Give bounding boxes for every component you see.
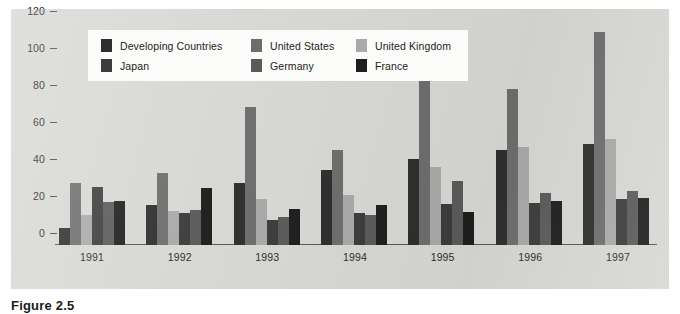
x-axis-label-1993: 1993 [234,251,300,271]
bar-united-kingdom-1992 [168,211,179,245]
legend-item-united-states: United States [251,39,356,52]
legend-item-developing-countries: Developing Countries [101,39,251,52]
bar-france-1994 [376,205,387,245]
bar-united-states-1997 [594,32,605,245]
bar-united-states-1993 [245,107,256,245]
legend-label: Germany [270,60,314,72]
y-axis-tick-label: 80 [33,79,45,91]
y-axis-tick: 60 [33,116,57,128]
bar-united-states-1992 [157,173,168,245]
bar-japan-1995 [441,204,452,245]
y-axis-tick: 100 [27,42,57,54]
y-axis-tick: 120 [27,5,57,17]
y-axis-tick: 40 [33,153,57,165]
y-axis-tick-label: 20 [33,190,45,202]
y-axis-tick-label: 60 [33,116,45,128]
bar-japan-1994 [354,213,365,245]
bar-developing-countries-1993 [234,183,245,245]
bar-germany-1991 [103,202,114,245]
figure-root: 020406080100120 199119921993199419951996… [0,0,680,314]
y-axis-tick-label: 120 [27,5,45,17]
bar-japan-1996 [529,203,540,245]
bar-france-1995 [463,212,474,245]
bar-japan-1997 [616,199,627,245]
bar-united-kingdom-1997 [605,139,616,245]
legend-swatch-developing-countries [101,39,112,52]
bar-developing-countries-1997 [583,144,594,245]
legend-swatch-united-states [251,39,262,52]
x-axis-label-1994: 1994 [322,251,388,271]
legend-swatch-germany [251,59,262,72]
bar-france-1997 [638,198,649,245]
figure-caption: Figure 2.5 [11,298,74,313]
bar-germany-1993 [278,217,289,245]
chart-legend: Developing CountriesUnited StatesUnited … [88,30,468,81]
bar-united-states-1995 [419,73,430,245]
bar-developing-countries-1991 [59,228,70,245]
bar-developing-countries-1994 [321,170,332,245]
bar-united-states-1991 [70,183,81,245]
bar-germany-1996 [540,193,551,245]
x-axis-label-1992: 1992 [147,251,213,271]
legend-label: Developing Countries [120,40,222,52]
chart-panel: 020406080100120 199119921993199419951996… [11,9,669,289]
legend-label: France [375,60,408,72]
bar-france-1993 [289,209,300,245]
legend-label: Japan [120,60,149,72]
bar-group-1996 [496,23,562,245]
legend-label: United States [270,40,334,52]
x-axis-label-1996: 1996 [497,251,563,271]
bar-france-1992 [201,188,212,245]
y-axis-tick-label: 100 [27,42,45,54]
legend-item-germany: Germany [251,59,356,72]
y-axis-tick-label: 40 [33,153,45,165]
legend-label: United Kingdom [375,40,451,52]
bar-united-states-1994 [332,150,343,245]
x-axis-label-1997: 1997 [585,251,651,271]
bar-united-kingdom-1991 [81,215,92,245]
y-axis-tick-mark [50,11,57,12]
bar-group-1997 [583,23,649,245]
x-axis-label-1995: 1995 [410,251,476,271]
bar-united-states-1996 [507,89,518,245]
x-axis-label-1991: 1991 [59,251,125,271]
bar-germany-1994 [365,215,376,245]
legend-swatch-united-kingdom [356,39,367,52]
bar-germany-1997 [627,191,638,245]
legend-item-japan: Japan [101,59,251,72]
bar-france-1996 [551,201,562,245]
bar-france-1991 [114,201,125,245]
y-axis-tick: 20 [33,190,57,202]
bar-japan-1993 [267,220,278,245]
bar-germany-1992 [190,210,201,245]
legend-item-france: France [356,59,454,72]
bar-developing-countries-1996 [496,150,507,245]
y-axis-tick: 80 [33,79,57,91]
bar-germany-1995 [452,181,463,245]
legend-swatch-france [356,59,367,72]
bar-developing-countries-1995 [408,159,419,245]
bar-united-kingdom-1993 [256,199,267,245]
y-axis-tick-label: 0 [39,227,45,239]
bar-united-kingdom-1995 [430,167,441,245]
legend-swatch-japan [101,59,112,72]
bar-japan-1991 [92,187,103,245]
bar-united-kingdom-1996 [518,147,529,245]
bar-japan-1992 [179,213,190,245]
y-axis: 020406080100120 [11,23,57,245]
bar-united-kingdom-1994 [343,195,354,245]
x-axis-labels: 1991199219931994199519961997 [55,251,657,271]
bar-developing-countries-1992 [146,205,157,245]
legend-item-united-kingdom: United Kingdom [356,39,454,52]
